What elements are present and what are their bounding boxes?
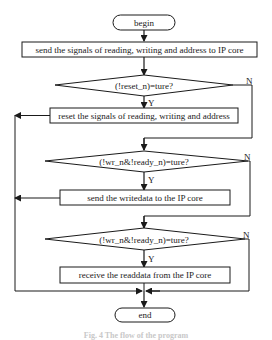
send-signals-label: send the signals of reading, writing and… <box>36 45 244 55</box>
figure-caption: Fig. 4 The flow of the program <box>84 331 189 340</box>
begin-label: begin <box>134 18 154 28</box>
process-reset-signals: reset the signals of reading, writing an… <box>50 108 238 123</box>
process-receive-readdata: receive the readdata from the IP core <box>60 267 230 283</box>
check-read-yes-label: Y <box>148 254 155 264</box>
send-writedata-label: send the writedata to the IP core <box>87 193 203 203</box>
end-label: end <box>139 310 152 320</box>
check-reset-label: (!reset_n)=ture? <box>115 81 173 91</box>
end-terminator: end <box>115 308 175 322</box>
begin-terminator: begin <box>113 15 175 30</box>
receive-readdata-label: receive the readdata from the IP core <box>79 270 212 280</box>
check-write-yes-label: Y <box>148 175 155 185</box>
check-write-label: (!wr_n&!ready_n)=ture? <box>99 157 189 167</box>
decision-check-write: (!wr_n&!ready_n)=ture? <box>45 151 248 172</box>
process-send-writedata: send the writedata to the IP core <box>60 190 230 205</box>
decision-check-read: (!wr_n&!ready_n)=ture? <box>45 228 245 250</box>
decision-check-reset: (!reset_n)=ture? <box>55 75 233 96</box>
process-send-signals: send the signals of reading, writing and… <box>22 42 257 57</box>
check-read-label: (!wr_n&!ready_n)=ture? <box>99 235 189 245</box>
flowchart: begin send the signals of reading, writi… <box>0 0 272 340</box>
check-reset-yes-label: Y <box>148 98 155 108</box>
reset-signals-label: reset the signals of reading, writing an… <box>58 111 230 121</box>
